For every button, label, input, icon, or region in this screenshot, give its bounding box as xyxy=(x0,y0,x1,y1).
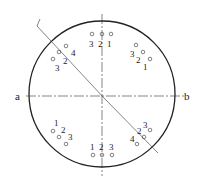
axis-label-b: b xyxy=(184,90,190,102)
svg-text:2: 2 xyxy=(137,126,142,136)
svg-text:2: 2 xyxy=(99,142,104,152)
hole-group-upper-left: 4 2 3 xyxy=(51,44,76,73)
svg-text:1: 1 xyxy=(54,118,59,128)
svg-text:2: 2 xyxy=(98,39,103,49)
svg-text:1: 1 xyxy=(90,142,95,152)
hole-group-lower-right: 3 2 4 xyxy=(130,120,152,146)
svg-text:1: 1 xyxy=(107,39,112,49)
svg-text:3: 3 xyxy=(130,49,135,59)
svg-text:2: 2 xyxy=(136,55,141,65)
svg-text:3: 3 xyxy=(109,142,114,152)
svg-text:4: 4 xyxy=(71,48,76,58)
svg-text:3: 3 xyxy=(143,120,148,130)
svg-text:2: 2 xyxy=(63,56,68,66)
svg-text:1: 1 xyxy=(143,62,148,72)
svg-text:3: 3 xyxy=(89,39,94,49)
bolt-circle-diagram: a b 3 2 1 3 2 1 4 2 3 1 2 3 xyxy=(0,0,203,182)
hole-group-upper-right: 3 2 1 xyxy=(130,43,152,72)
hole-group-top: 3 2 1 xyxy=(89,32,113,49)
hole-group-lower-left: 1 2 3 xyxy=(51,118,73,146)
svg-text:2: 2 xyxy=(61,125,66,135)
svg-text:3: 3 xyxy=(68,132,73,142)
svg-text:3: 3 xyxy=(55,63,60,73)
axis-label-a: a xyxy=(15,90,20,102)
svg-text:4: 4 xyxy=(130,134,135,144)
